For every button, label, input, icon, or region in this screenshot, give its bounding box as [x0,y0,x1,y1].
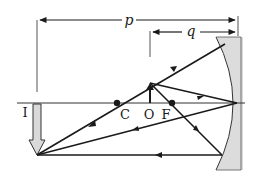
label-q: q [187,23,196,39]
label-center: C [120,107,130,122]
focus-point [169,100,175,106]
label-object: O [144,107,155,122]
label-focus: F [161,107,170,122]
mirror-ray-diagram: p q I [0,0,259,181]
label-image: I [22,105,27,120]
label-p: p [125,12,134,28]
rays [37,44,237,155]
image-arrow [29,104,45,155]
center-point [114,100,120,106]
